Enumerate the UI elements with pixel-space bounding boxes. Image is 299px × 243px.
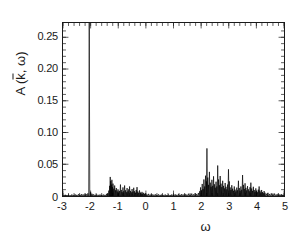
y-tick-label: 0.15 (37, 95, 58, 106)
x-tick-label: 2 (189, 201, 213, 212)
y-tick-label: 0.10 (37, 127, 58, 138)
x-tick-label: 3 (217, 201, 241, 212)
y-axis-title: A (k, ω) (13, 4, 28, 144)
x-tick-label: 1 (162, 201, 186, 212)
x-tick-label: -1 (106, 201, 130, 212)
x-axis-title: ω (0, 220, 299, 233)
k-bar-symbol: k (13, 73, 28, 80)
major-ticks (63, 23, 284, 196)
plot-canvas (63, 23, 284, 196)
y-axis-title-prefix: A ( (13, 80, 28, 96)
y-axis-title-middle: , (13, 66, 28, 73)
x-axis-tick-labels: -3-2-1012345 (0, 201, 299, 217)
spectral-function-figure: 00.050.100.150.200.25 A (k, ω) -3-2-1012… (0, 0, 299, 243)
x-axis-title-text: ω (200, 219, 210, 234)
spectral-function-curve (63, 23, 284, 196)
plot-frame (62, 22, 285, 197)
y-tick-label: 0.05 (37, 159, 58, 170)
omega-symbol: ω (13, 56, 28, 66)
y-tick-label: 0.20 (37, 63, 58, 74)
minor-ticks (63, 23, 284, 196)
x-tick-label: -2 (78, 201, 102, 212)
x-tick-label: -3 (50, 201, 74, 212)
x-tick-label: 5 (273, 201, 297, 212)
x-tick-label: 0 (134, 201, 158, 212)
y-axis-title-suffix: ) (13, 51, 28, 55)
y-tick-label: 0.25 (37, 31, 58, 42)
x-tick-label: 4 (245, 201, 269, 212)
